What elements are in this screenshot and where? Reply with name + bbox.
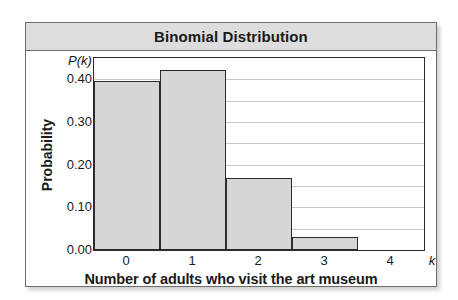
chart-body: Probability P(k) 0.000.100.200.300.40 01…: [26, 51, 436, 288]
bar: [160, 70, 226, 250]
x-axis-symbol-label: k: [429, 253, 436, 268]
x-tick-label: 2: [254, 253, 261, 268]
x-axis-tick-labels: 01234: [93, 253, 425, 273]
y-axis-tick-labels: 0.000.100.200.300.40: [44, 51, 92, 288]
plot-area: [93, 57, 425, 251]
bar: [226, 178, 292, 250]
gridline: [94, 79, 424, 80]
x-tick-label: 0: [122, 253, 129, 268]
x-tick-label: 1: [188, 253, 195, 268]
chart-title-band: Binomial Distribution: [26, 23, 436, 51]
x-tick-label: 4: [386, 253, 393, 268]
bar: [292, 237, 358, 250]
y-tick-label: 0.20: [50, 156, 92, 171]
chart-figure: Binomial Distribution Probability P(k) 0…: [25, 22, 437, 287]
page-title: Binomial Distribution: [154, 28, 308, 45]
bar: [94, 81, 160, 250]
x-axis-title: Number of adults who visit the art museu…: [26, 271, 436, 287]
y-tick-label: 0.40: [50, 71, 92, 86]
y-tick-label: 0.30: [50, 114, 92, 129]
y-tick-label: 0.10: [50, 199, 92, 214]
y-tick-label: 0.00: [50, 242, 92, 257]
x-tick-label: 3: [320, 253, 327, 268]
